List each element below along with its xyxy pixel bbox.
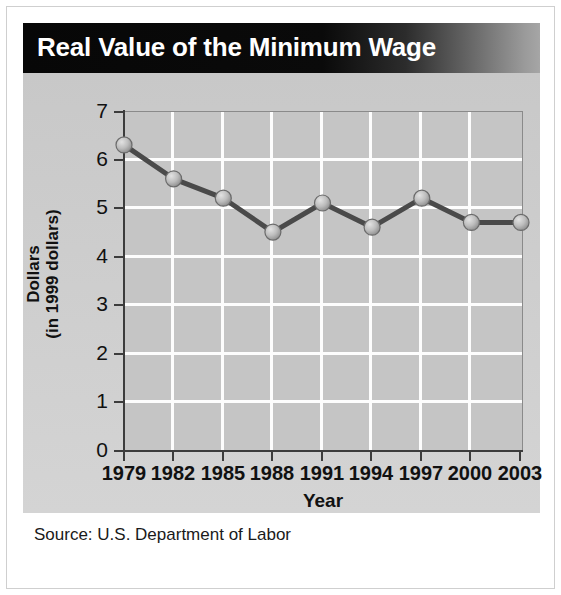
x-tick [271,452,273,461]
y-axis-line [123,110,125,451]
x-tick [321,452,323,461]
y-tick [114,256,123,258]
source-note: Source: U.S. Department of Labor [34,525,291,545]
y-tick-label: 0 [86,438,108,462]
y-axis-title: Dollars (in 1999 dollars) [24,179,62,369]
y-tick-label: 7 [86,99,108,123]
x-axis-title: Year [124,490,522,512]
gridline-horizontal [124,352,522,355]
y-axis-title-line2: (in 1999 dollars) [43,179,62,369]
x-tick [123,452,125,461]
y-tick [114,207,123,209]
y-tick [114,304,123,306]
x-tick-label: 2003 [490,462,550,485]
y-tick-label: 2 [86,341,108,365]
y-tick-label: 6 [86,147,108,171]
y-tick [114,353,123,355]
gridline-horizontal [124,206,522,209]
x-tick [172,452,174,461]
y-tick-label: 4 [86,244,108,268]
y-tick-label: 1 [86,389,108,413]
y-tick-label: 5 [86,195,108,219]
plot-area [124,111,523,451]
y-tick [114,159,123,161]
x-tick [469,452,471,461]
gridline-horizontal [124,158,522,161]
gridline-horizontal [124,400,522,403]
x-tick [519,452,521,461]
plot-wrapper: 7 6 5 4 3 2 1 0 1979 1982 1985 1988 1991… [0,0,561,595]
gridline-horizontal [124,255,522,258]
y-axis-title-line1: Dollars [24,179,43,369]
x-tick [222,452,224,461]
x-axis-line [123,450,523,452]
x-tick [420,452,422,461]
y-tick [114,401,123,403]
y-tick-label: 3 [86,292,108,316]
y-tick [114,450,123,452]
y-tick [114,111,123,113]
gridline-horizontal [124,303,522,306]
x-tick [370,452,372,461]
